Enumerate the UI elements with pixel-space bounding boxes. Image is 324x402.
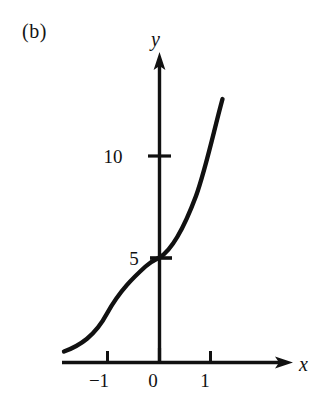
y-tick-label-10: 10 <box>104 146 123 167</box>
x-axis-label: x <box>298 353 308 375</box>
x-tick-label-0: 0 <box>148 370 158 391</box>
figure-panel: (b) y x 10 5 −1 <box>0 0 324 402</box>
y-axis-label: y <box>149 28 160 51</box>
x-tick-label-1: 1 <box>200 370 210 391</box>
plot-area: y x 10 5 −1 0 1 <box>0 0 324 402</box>
exponential-curve <box>64 99 223 352</box>
y-tick-label-5: 5 <box>129 248 139 269</box>
x-axis <box>62 356 293 368</box>
x-tick-label-minus1: −1 <box>89 370 109 391</box>
y-axis <box>154 52 166 362</box>
